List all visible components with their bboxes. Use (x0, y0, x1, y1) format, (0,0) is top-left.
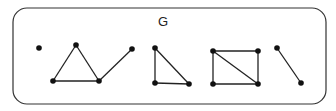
graph-edge (99, 49, 132, 81)
graph-node (152, 80, 158, 86)
graph-node (210, 48, 216, 54)
graph-node (129, 46, 135, 52)
graph-node (298, 80, 304, 86)
graph-node (255, 48, 261, 54)
graph-edges (53, 45, 301, 84)
graph-node (96, 78, 102, 84)
graph-node (36, 45, 42, 51)
graph-frame (13, 8, 326, 104)
graph-edge (277, 48, 301, 83)
graph-edge (213, 51, 258, 84)
graph-edge (76, 45, 99, 81)
graph-edge (53, 45, 76, 81)
graph-node (50, 78, 56, 84)
graph-node (210, 81, 216, 87)
graph-edge (155, 48, 189, 84)
graph-node (73, 42, 79, 48)
graph-node (255, 81, 261, 87)
graph-node (274, 45, 280, 51)
graph-label: G (158, 14, 168, 29)
graph-edge (155, 83, 189, 84)
graph-node (186, 81, 192, 87)
graph-node (152, 45, 158, 51)
